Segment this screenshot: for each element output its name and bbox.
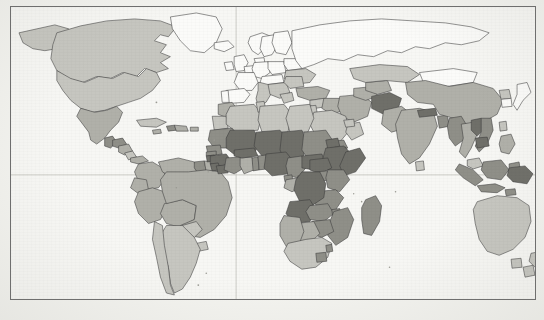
country-uae-qatar — [344, 119, 355, 127]
map-frame — [10, 6, 536, 300]
island-speck — [389, 266, 391, 268]
island-speck — [361, 201, 363, 203]
country-portugal — [221, 90, 229, 102]
island-speck — [213, 139, 215, 141]
country-kazakhstan — [350, 65, 420, 83]
country-tasmania — [511, 258, 522, 268]
island-speck — [205, 272, 207, 274]
country-lesotho — [316, 252, 327, 262]
world-choropleth-map — [11, 7, 535, 299]
island-speck — [395, 191, 397, 193]
island-speck — [208, 171, 209, 172]
country-ireland — [224, 62, 234, 71]
country-taiwan — [499, 121, 507, 131]
country-eswatini — [326, 244, 333, 252]
country-dominican-republic — [174, 125, 188, 131]
country-new-zealand-south — [523, 265, 535, 277]
country-sri-lanka — [415, 161, 424, 171]
country-poland — [268, 62, 286, 75]
country-egypt — [286, 104, 314, 132]
island-speck — [197, 284, 199, 286]
country-north-korea — [499, 89, 511, 99]
country-puerto-rico — [190, 127, 198, 131]
country-western-sahara — [212, 116, 228, 130]
island-speck — [176, 187, 177, 188]
figure-page — [0, 0, 544, 320]
country-jamaica — [152, 129, 161, 134]
country-burkina-faso — [234, 148, 258, 158]
island-speck — [156, 101, 158, 103]
country-timor — [505, 189, 516, 196]
island-speck — [353, 193, 354, 194]
country-south-korea — [501, 98, 512, 107]
country-cambodia — [475, 137, 489, 148]
